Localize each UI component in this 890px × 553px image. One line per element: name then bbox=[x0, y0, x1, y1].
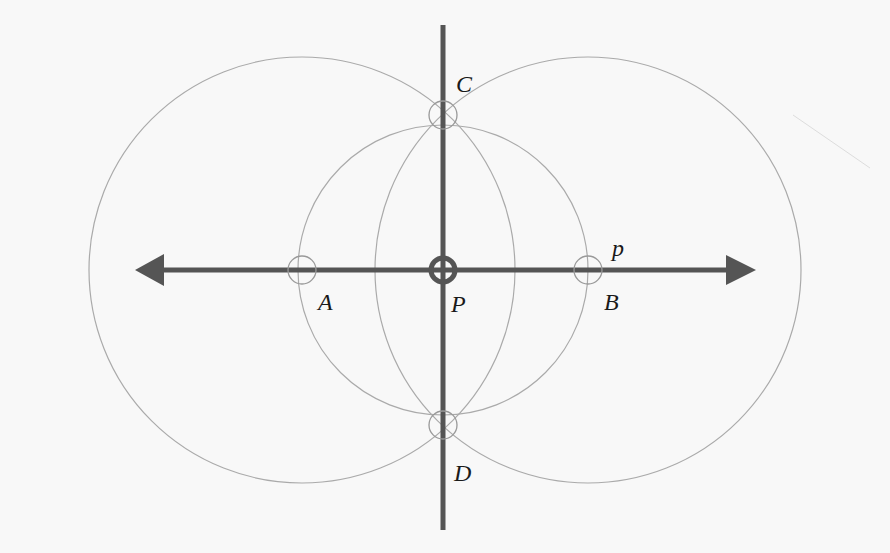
construction-svg bbox=[0, 0, 890, 553]
label-point-B: B bbox=[604, 290, 619, 314]
label-point-P: P bbox=[451, 292, 466, 316]
stray-mark bbox=[793, 115, 870, 168]
label-line-p: p bbox=[612, 236, 624, 260]
arrow-right-icon bbox=[726, 255, 756, 285]
label-point-C: C bbox=[456, 72, 472, 96]
arrow-left-icon bbox=[135, 254, 164, 286]
diagram-canvas: p A B P C D bbox=[0, 0, 890, 553]
label-point-D: D bbox=[454, 461, 471, 485]
label-point-A: A bbox=[318, 290, 333, 314]
